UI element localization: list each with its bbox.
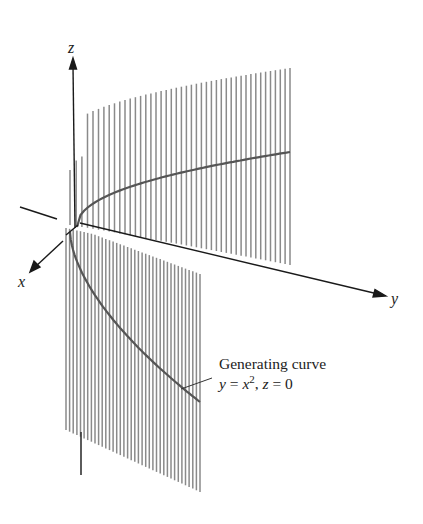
x-axis (34, 241, 63, 268)
parabolic-cylinder-figure: z x y Generating curve y = x2, z = 0 (0, 0, 423, 524)
y-axis-label: y (389, 290, 399, 308)
eq-y: y (217, 375, 226, 392)
eq-separator: , (255, 375, 263, 392)
z-axis-arrowhead (70, 58, 77, 69)
y-axis-arrowhead (373, 290, 386, 298)
annotation-equation: y = x2, z = 0 (217, 373, 293, 392)
surface-rulings-upper (70, 68, 290, 265)
surface-rulings-lower (66, 228, 200, 492)
z-axis-label: z (67, 39, 75, 56)
annotation-title: Generating curve (219, 355, 326, 372)
eq-x: x (241, 375, 249, 392)
y-axis (80, 223, 378, 294)
x-axis-arrowhead (30, 261, 40, 272)
eq-equals-2: = 0 (269, 375, 293, 392)
x-axis-negative (20, 207, 57, 219)
x-axis-label: x (17, 273, 25, 290)
axes (20, 58, 386, 475)
z-axis (73, 66, 75, 228)
eq-equals-1: = (226, 375, 243, 392)
eq-z: z (262, 375, 269, 392)
